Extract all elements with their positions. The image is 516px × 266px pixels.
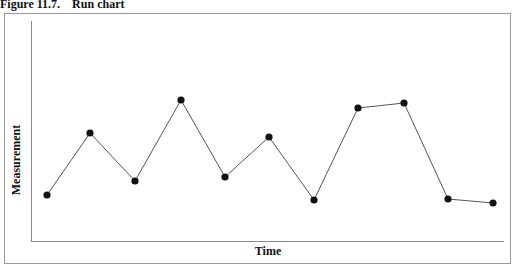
data-point — [86, 129, 93, 136]
data-point — [177, 96, 184, 103]
data-point — [221, 173, 228, 180]
data-point — [131, 177, 138, 184]
data-point — [310, 196, 317, 203]
run-line — [47, 100, 493, 203]
data-point — [265, 133, 272, 140]
data-point — [444, 195, 451, 202]
data-point — [489, 199, 496, 206]
data-point — [400, 99, 407, 106]
run-chart-plot — [0, 0, 516, 266]
data-points — [43, 96, 496, 206]
data-point — [43, 191, 50, 198]
data-point — [354, 104, 361, 111]
y-axis-label: Measurement — [9, 125, 24, 195]
x-axis-label: Time — [255, 244, 281, 259]
